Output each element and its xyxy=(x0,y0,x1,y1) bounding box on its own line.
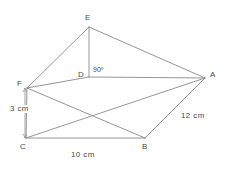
edges-group xyxy=(26,27,205,138)
dimension-label-dim-ab: 12 cm xyxy=(181,112,205,120)
vertex-label-a: A xyxy=(210,71,215,79)
vertex-label-f: F xyxy=(17,80,22,88)
vertex-label-d: D xyxy=(78,71,84,79)
edge-fb xyxy=(27,88,145,138)
angle-label-angle-d: 90º xyxy=(93,66,103,73)
edge-ba xyxy=(145,78,205,138)
dimension-label-dim-cf: 3 cm xyxy=(9,105,30,113)
vertex-label-c: C xyxy=(20,143,26,151)
edge-ea xyxy=(89,27,205,78)
vertex-label-b: B xyxy=(142,143,147,151)
edge-ca xyxy=(26,78,205,138)
geometry-diagram xyxy=(0,0,227,172)
edge-da xyxy=(89,77,205,78)
dimension-label-dim-cb: 10 cm xyxy=(71,151,95,159)
vertex-label-e: E xyxy=(85,14,90,22)
edge-fc xyxy=(26,88,27,138)
